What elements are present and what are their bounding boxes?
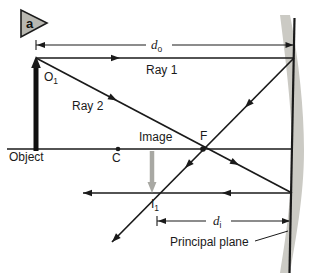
ray1-arrowhead bbox=[111, 55, 120, 62]
ray1: Ray 1 bbox=[36, 55, 294, 77]
principal-plane-callout: Principal plane bbox=[170, 231, 288, 249]
object-label: Object bbox=[9, 150, 44, 164]
dimension-do-label: do bbox=[151, 37, 163, 54]
dimension-di-label: di bbox=[213, 213, 222, 230]
ray2-label: Ray 2 bbox=[72, 99, 104, 113]
principal-plane-pointer-line bbox=[255, 231, 288, 241]
object-point-label: O1 bbox=[44, 70, 58, 86]
ray2-arrowhead-1 bbox=[107, 93, 118, 103]
ray2-line bbox=[36, 58, 292, 193]
reflected-ray2-end-arrowhead bbox=[83, 190, 92, 197]
figure-letter: a bbox=[26, 16, 34, 31]
figure-label-badge: a bbox=[21, 10, 47, 37]
triangle-badge-icon bbox=[21, 10, 47, 37]
ray2-arrowhead-2 bbox=[229, 158, 240, 168]
image-arrow: Image I1 bbox=[139, 130, 173, 213]
center-of-curvature-label: C bbox=[112, 151, 121, 165]
ray2: Ray 2 bbox=[36, 58, 292, 193]
image-arrowhead bbox=[148, 182, 157, 193]
principal-plane-label: Principal plane bbox=[170, 235, 249, 249]
object-arrow: Object O1 bbox=[9, 56, 58, 164]
focal-point-label: F bbox=[200, 129, 207, 143]
reflected-ray2-arrowhead bbox=[222, 190, 231, 197]
dimension-do: do bbox=[36, 37, 294, 54]
mirror-ray-diagram-figure: do Ray 1 Ray 2 bbox=[0, 0, 313, 274]
ray-diagram-canvas: do Ray 1 Ray 2 bbox=[0, 0, 313, 274]
dimension-di: di bbox=[157, 213, 290, 230]
di-arrow-left bbox=[158, 218, 166, 224]
reflected-ray2 bbox=[83, 190, 292, 197]
do-arrow-left bbox=[37, 42, 45, 48]
ray1-label: Ray 1 bbox=[146, 63, 178, 77]
image-label: Image bbox=[139, 130, 173, 144]
focal-point-dot bbox=[200, 146, 206, 152]
